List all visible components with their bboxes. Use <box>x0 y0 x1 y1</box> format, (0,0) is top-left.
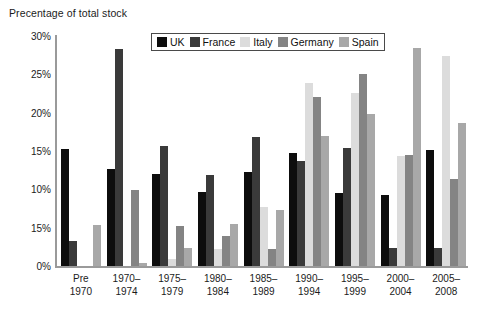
legend-entry-italy: Italy <box>240 36 272 48</box>
x-axis-tick-6: 1995–1999 <box>341 272 369 298</box>
bar-italy <box>305 83 313 266</box>
bar-spain <box>458 123 466 266</box>
legend-swatch-france <box>190 37 200 47</box>
y-axis-tick-labels: 30%25%20%15%10%15%0% <box>0 0 51 311</box>
x-axis-tick-5: 1990–1994 <box>295 272 323 298</box>
bar-france <box>297 161 305 266</box>
legend-label-germany: Germany <box>291 36 334 48</box>
legend-entry-spain: Spain <box>339 36 379 48</box>
bar-spain <box>321 136 329 266</box>
bar-italy <box>397 156 405 266</box>
bar-group <box>381 36 421 266</box>
y-axis-tick-4: 10% <box>31 184 51 195</box>
y-axis-tick-6: 0% <box>37 261 51 272</box>
bar-germany <box>131 190 139 266</box>
bar-italy <box>260 207 268 266</box>
legend-label-uk: UK <box>170 36 185 48</box>
bar-france <box>69 241 77 266</box>
bar-spain <box>139 263 147 266</box>
legend-entry-france: France <box>190 36 236 48</box>
bar-germany <box>405 155 413 266</box>
bar-group <box>426 36 466 266</box>
legend-entry-uk: UK <box>157 36 185 48</box>
legend-label-france: France <box>203 36 236 48</box>
y-axis-tick-1: 25% <box>31 69 51 80</box>
bar-italy <box>442 56 450 266</box>
bar-uk <box>426 150 434 266</box>
bar-group <box>152 36 192 266</box>
legend-label-spain: Spain <box>352 36 379 48</box>
y-axis-tick-5: 15% <box>31 222 51 233</box>
x-axis-tick-1: 1970–1974 <box>113 272 141 298</box>
legend-swatch-germany <box>278 37 288 47</box>
bar-group <box>289 36 329 266</box>
legend-label-italy: Italy <box>253 36 272 48</box>
bar-france <box>252 137 260 266</box>
bar-france <box>389 248 397 266</box>
chart-legend: UKFranceItalyGermanySpain <box>151 33 385 51</box>
bar-uk <box>381 195 389 266</box>
bar-france <box>115 49 123 266</box>
bar-germany <box>176 226 184 266</box>
bar-france <box>343 148 351 266</box>
x-axis-tick-3: 1980–1984 <box>204 272 232 298</box>
bar-group <box>335 36 375 266</box>
bar-uk <box>335 193 343 266</box>
bar-spain <box>93 225 101 266</box>
bar-france <box>206 175 214 266</box>
y-axis-tick-2: 20% <box>31 107 51 118</box>
y-axis-tick-0: 30% <box>31 31 51 42</box>
bar-uk <box>198 192 206 266</box>
bar-group <box>61 36 101 266</box>
x-axis-tick-2: 1975–1979 <box>158 272 186 298</box>
x-axis-tick-8: 2005–2008 <box>432 272 460 298</box>
x-axis-line <box>55 266 468 268</box>
legend-swatch-spain <box>339 37 349 47</box>
bar-france <box>434 248 442 266</box>
x-axis-tick-0: Pre1970 <box>70 272 92 298</box>
bar-germany <box>313 97 321 266</box>
bar-uk <box>152 174 160 266</box>
plot-area <box>57 36 468 266</box>
bar-group <box>244 36 284 266</box>
x-axis-tick-7: 2000–2004 <box>387 272 415 298</box>
bar-germany <box>450 179 458 266</box>
bar-uk <box>289 153 297 266</box>
bar-group <box>198 36 238 266</box>
bar-spain <box>276 210 284 266</box>
bar-chart-figure: Precentage of total stock 30%25%20%15%10… <box>0 0 480 311</box>
bar-spain <box>367 114 375 266</box>
bar-germany <box>359 74 367 266</box>
x-axis-tick-4: 1985–1989 <box>250 272 278 298</box>
bar-group <box>107 36 147 266</box>
bar-uk <box>107 169 115 266</box>
bar-spain <box>413 48 421 266</box>
bar-italy <box>168 259 176 266</box>
bar-spain <box>230 224 238 266</box>
y-axis-tick-3: 15% <box>31 146 51 157</box>
bar-uk <box>61 149 69 266</box>
bar-italy <box>214 249 222 266</box>
bar-spain <box>184 248 192 266</box>
bar-germany <box>268 249 276 266</box>
legend-swatch-uk <box>157 37 167 47</box>
bar-france <box>160 146 168 266</box>
bar-germany <box>222 236 230 266</box>
bar-uk <box>244 172 252 266</box>
bar-italy <box>351 93 359 266</box>
legend-entry-germany: Germany <box>278 36 334 48</box>
legend-swatch-italy <box>240 37 250 47</box>
